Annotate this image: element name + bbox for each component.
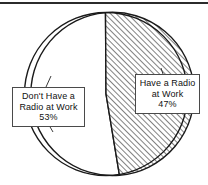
- slice-label-has-radio-value: 47%: [138, 99, 197, 110]
- slice-label-no-radio-line1: Don't Have a: [15, 91, 82, 102]
- slice-label-has-radio-line2: at Work: [138, 89, 197, 100]
- slice-label-has-radio: Have a Radio at Work 47%: [135, 74, 200, 114]
- slice-label-no-radio-line2: Radio at Work: [15, 102, 82, 113]
- slice-label-has-radio-line1: Have a Radio: [138, 78, 197, 89]
- slice-label-no-radio-value: 53%: [15, 112, 82, 123]
- pie-chart-figure: Don't Have a Radio at Work 53% Have a Ra…: [0, 0, 208, 185]
- slice-label-no-radio: Don't Have a Radio at Work 53%: [12, 87, 85, 127]
